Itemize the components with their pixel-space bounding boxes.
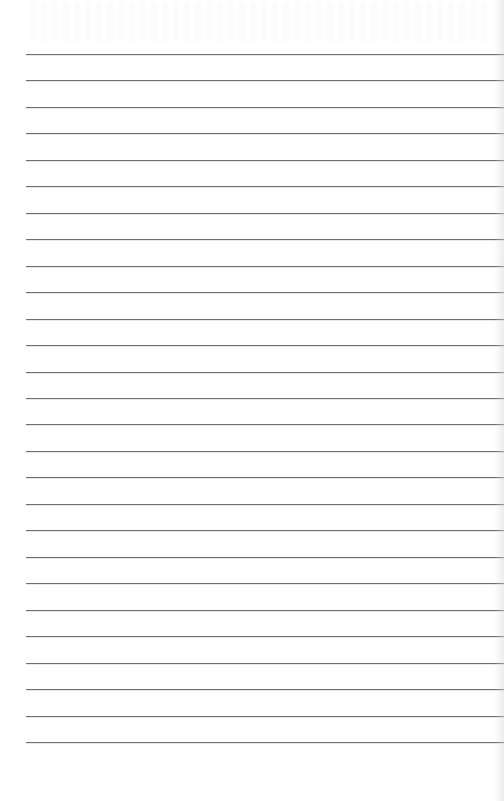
bleed-through-text — [30, 2, 490, 42]
ruled-line — [26, 372, 504, 373]
ruled-line — [26, 160, 504, 161]
ruled-line — [26, 319, 504, 320]
ruled-line — [26, 451, 504, 452]
page-edge-shadow — [494, 0, 504, 801]
ruled-line — [26, 504, 504, 505]
ruled-line — [26, 424, 504, 425]
ruled-line — [26, 663, 504, 664]
ruled-line — [26, 689, 504, 690]
ruled-line — [26, 742, 504, 743]
ruled-line — [26, 557, 504, 558]
ruled-line — [26, 80, 504, 81]
ruled-line — [26, 583, 504, 584]
ruled-line — [26, 239, 504, 240]
ruled-line — [26, 292, 504, 293]
ruled-line — [26, 345, 504, 346]
ruled-line — [26, 186, 504, 187]
ruled-line — [26, 133, 504, 134]
ruled-line — [26, 54, 504, 55]
ruled-line — [26, 636, 504, 637]
lined-paper-page — [0, 0, 504, 801]
ruled-line — [26, 610, 504, 611]
ruled-line — [26, 716, 504, 717]
ruled-line — [26, 266, 504, 267]
ruled-line — [26, 213, 504, 214]
ruled-line — [26, 477, 504, 478]
ruled-line — [26, 530, 504, 531]
ruled-line — [26, 107, 504, 108]
ruled-line — [26, 398, 504, 399]
